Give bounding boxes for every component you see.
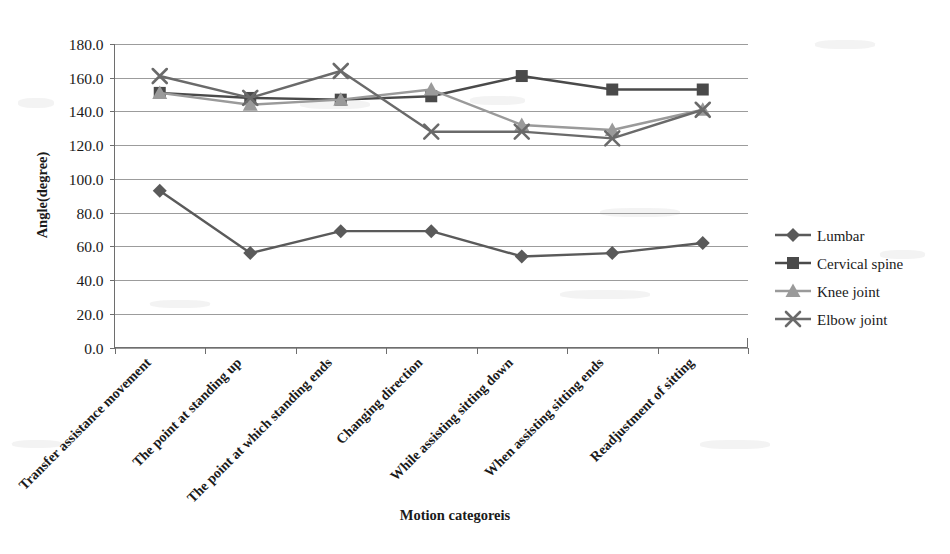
- data-point: [243, 246, 257, 260]
- data-point: [697, 84, 709, 96]
- legend-label: Knee joint: [817, 284, 881, 300]
- y-tick-label: 60.0: [76, 238, 103, 255]
- data-point: [424, 82, 439, 96]
- y-tick-label: 80.0: [76, 205, 103, 222]
- line-chart: 0.020.040.060.080.0100.0120.0140.0160.01…: [0, 0, 950, 554]
- y-tick-label: 180.0: [69, 36, 104, 53]
- x-category-label: Changing direction: [333, 355, 425, 447]
- y-tick-label: 160.0: [69, 70, 104, 87]
- legend-item-elbow-joint[interactable]: Elbow joint: [775, 312, 888, 328]
- category-labels: Transfer assistance movementThe point at…: [16, 355, 697, 506]
- legend-label: Cervical spine: [817, 256, 904, 272]
- legend-marker-icon: [787, 257, 799, 269]
- data-point: [424, 224, 438, 238]
- data-point: [153, 184, 167, 198]
- data-point: [516, 70, 528, 82]
- legend-item-cervical-spine[interactable]: Cervical spine: [775, 256, 904, 272]
- x-category-label: Transfer assistance movement: [16, 355, 154, 493]
- legend-item-lumbar[interactable]: Lumbar: [775, 228, 864, 244]
- y-tick-label: 100.0: [69, 171, 104, 188]
- data-point: [334, 64, 348, 78]
- legend-label: Lumbar: [817, 228, 864, 244]
- x-category-label: Readjustment of sitting: [587, 355, 697, 465]
- series-layer: [152, 64, 710, 263]
- legend: LumbarCervical spineKnee jointElbow join…: [775, 228, 904, 328]
- y-axis-title: Angle(degree): [34, 151, 51, 238]
- data-point: [696, 236, 710, 250]
- data-point: [334, 224, 348, 238]
- y-tick-label: 20.0: [76, 306, 103, 323]
- legend-label: Elbow joint: [817, 312, 888, 328]
- x-category-label: The point at which standing ends: [184, 355, 335, 506]
- legend-item-knee-joint[interactable]: Knee joint: [775, 284, 881, 300]
- data-point: [606, 84, 618, 96]
- y-tick-label: 140.0: [69, 103, 104, 120]
- data-point: [605, 246, 619, 260]
- data-point: [515, 249, 529, 263]
- chart-container: 0.020.040.060.080.0100.0120.0140.0160.01…: [0, 0, 950, 554]
- series-lumbar: [153, 184, 710, 264]
- y-tick-label: 120.0: [69, 137, 104, 154]
- series-elbow-joint: [153, 64, 710, 145]
- y-tick-label: 0.0: [84, 340, 104, 357]
- y-tick-label: 40.0: [76, 272, 103, 289]
- y-tick-marks: [110, 45, 115, 349]
- y-tick-labels: 0.020.040.060.080.0100.0120.0140.0160.01…: [69, 36, 104, 357]
- x-axis-title: Motion categoreis: [400, 507, 511, 523]
- legend-marker-icon: [786, 228, 800, 242]
